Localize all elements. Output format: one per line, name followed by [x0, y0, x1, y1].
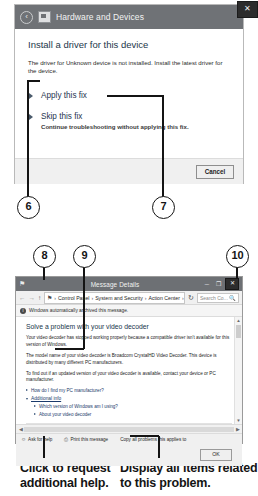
breadcrumb-separator: › — [54, 295, 56, 301]
content-heading: Solve a problem with your video decoder — [26, 323, 232, 330]
content-paragraph: To find out if an updated version of you… — [26, 371, 232, 385]
up-arrow-icon[interactable]: ↑ — [38, 294, 41, 302]
breadcrumb-item-action-center[interactable]: Action Center — [148, 295, 179, 301]
arrow-right-icon — [29, 93, 33, 99]
bullet-arrow-icon — [34, 405, 36, 407]
link-which-windows-version[interactable]: Which version of Windows am I using? — [26, 404, 232, 409]
maximize-icon[interactable]: ❐ — [214, 280, 222, 288]
leader-line — [27, 80, 29, 198]
bullet-arrow-icon — [26, 389, 28, 391]
leader-line — [83, 266, 85, 349]
link-label: How do I find my PC manufacturer? — [31, 388, 104, 393]
forward-arrow-icon[interactable]: → — [29, 294, 36, 302]
leader-line — [162, 95, 164, 198]
divider — [26, 423, 232, 424]
link-label: About your video decoder — [39, 412, 91, 417]
printer-icon: ⎙ — [64, 436, 68, 443]
scroll-left-icon[interactable]: ◀ — [17, 427, 24, 432]
skip-this-fix-label: Skip this fix — [41, 112, 230, 121]
additional-info-expander[interactable]: Additional info — [26, 396, 232, 401]
top-window-title: Hardware and Devices — [56, 12, 144, 22]
callout-6: 6 — [17, 196, 40, 219]
link-find-pc-manufacturer[interactable]: How do I find my PC manufacturer? — [26, 388, 232, 393]
archived-notice-text: Windows automatically archived this mess… — [29, 308, 128, 313]
caption-line-2: additional help. — [20, 476, 111, 491]
caption-line-2: to this problem. — [120, 476, 257, 491]
status-bar: ☺ Ask for help ⎙ Print this message Copy… — [16, 433, 242, 444]
scroll-right-icon[interactable]: ▶ — [234, 427, 241, 432]
top-window-body: Install a driver for this device The dri… — [15, 29, 243, 158]
bottom-window-titlebar: ⚑ Message Details ─ ❐ ✕ — [16, 277, 242, 291]
status-link-label: Copy all problems this applies to — [120, 437, 186, 442]
message-content: Solve a problem with your video decoder … — [16, 317, 242, 424]
breadcrumb-item-system-and-security[interactable]: System and Security — [95, 295, 143, 301]
link-label: Which version of Windows am I using? — [39, 404, 118, 409]
back-arrow-icon[interactable]: ← — [19, 294, 26, 302]
breadcrumb-separator: › — [91, 295, 93, 301]
flag-icon: ⚑ — [19, 280, 27, 288]
close-icon[interactable]: ✕ — [225, 278, 239, 290]
callout-10: 10 — [226, 245, 249, 268]
link-about-video-decoder[interactable]: About your video decoder — [26, 412, 232, 417]
hardware-and-devices-window: ‹ Hardware and Devices ✕ Install a drive… — [14, 4, 244, 184]
horizontal-scrollbar[interactable]: ◀ ▶ — [16, 424, 242, 433]
info-icon: i — [20, 308, 26, 314]
archived-notice-bar: i Windows automatically archived this me… — [16, 305, 242, 317]
page-description: The driver for Unknown device is not ins… — [28, 59, 230, 75]
page-title: Install a driver for this device — [28, 39, 230, 50]
leader-line — [158, 436, 160, 458]
breadcrumb-separator: › — [182, 295, 184, 301]
breadcrumb[interactable]: ⚑ › Control Panel › System and Security … — [44, 292, 185, 304]
cancel-button[interactable]: Cancel — [196, 165, 234, 179]
troubleshooter-icon — [38, 11, 51, 23]
ask-for-help-link[interactable]: ☺ Ask for help — [21, 436, 52, 442]
content-paragraph: The model name of your video decoder is … — [26, 353, 232, 367]
vertical-scrollbar[interactable]: ▲ ▼ — [234, 317, 242, 424]
help-icon: ☺ — [21, 436, 26, 442]
chevron-down-icon — [26, 398, 28, 400]
copy-all-problems-link[interactable]: Copy all problems this applies to — [120, 437, 186, 442]
status-link-label: Print this message — [70, 437, 108, 442]
skip-this-fix-sublabel: Continue troubleshooting without applyin… — [41, 123, 230, 130]
leader-line — [43, 436, 45, 458]
top-window-titlebar: ‹ Hardware and Devices ✕ — [15, 5, 243, 29]
status-link-label: Ask for help — [28, 437, 52, 442]
leader-line — [55, 348, 84, 350]
close-icon[interactable]: ✕ — [237, 1, 258, 18]
leader-line — [43, 266, 45, 280]
search-placeholder: Search Co... — [200, 295, 229, 301]
leader-line — [107, 95, 164, 97]
callout-7: 7 — [152, 196, 175, 219]
breadcrumb-separator: › — [145, 295, 147, 301]
scroll-up-icon[interactable]: ▲ — [235, 317, 242, 324]
ok-button[interactable]: OK — [200, 449, 232, 461]
callout-8: 8 — [33, 245, 56, 268]
print-this-message-link[interactable]: ⎙ Print this message — [64, 436, 108, 443]
additional-info-label: Additional info — [31, 396, 61, 401]
skip-this-fix-option[interactable]: Skip this fix Continue troubleshooting w… — [28, 112, 230, 130]
arrow-right-icon — [29, 114, 33, 120]
flag-icon: ⚑ — [47, 294, 52, 301]
search-input[interactable]: Search Co... 🔍 — [197, 293, 239, 303]
bottom-window-footer: OK — [16, 444, 242, 466]
content-paragraph: Your video decoder has stopped working p… — [26, 335, 232, 349]
address-bar: ← → ↑ ⚑ › Control Panel › System and Sec… — [16, 291, 242, 305]
minimize-icon[interactable]: ─ — [203, 280, 211, 288]
bullet-arrow-icon — [34, 413, 36, 415]
callout-9: 9 — [73, 245, 96, 268]
top-window-footer: Cancel — [15, 158, 243, 184]
back-arrow-icon[interactable]: ‹ — [20, 11, 33, 24]
window-controls: ─ ❐ ✕ — [203, 278, 239, 290]
refresh-icon[interactable]: ↻ — [188, 294, 194, 302]
search-icon[interactable]: 🔍 — [229, 295, 236, 301]
leader-line — [130, 435, 159, 437]
bottom-window-title: Message Details — [27, 281, 203, 288]
scroll-down-icon[interactable]: ▼ — [235, 417, 242, 424]
scrollbar-thumb[interactable] — [24, 427, 234, 432]
scrollbar-thumb[interactable] — [236, 325, 241, 338]
message-details-window: ⚑ Message Details ─ ❐ ✕ ← → ↑ ⚑ › Contro… — [15, 276, 243, 444]
